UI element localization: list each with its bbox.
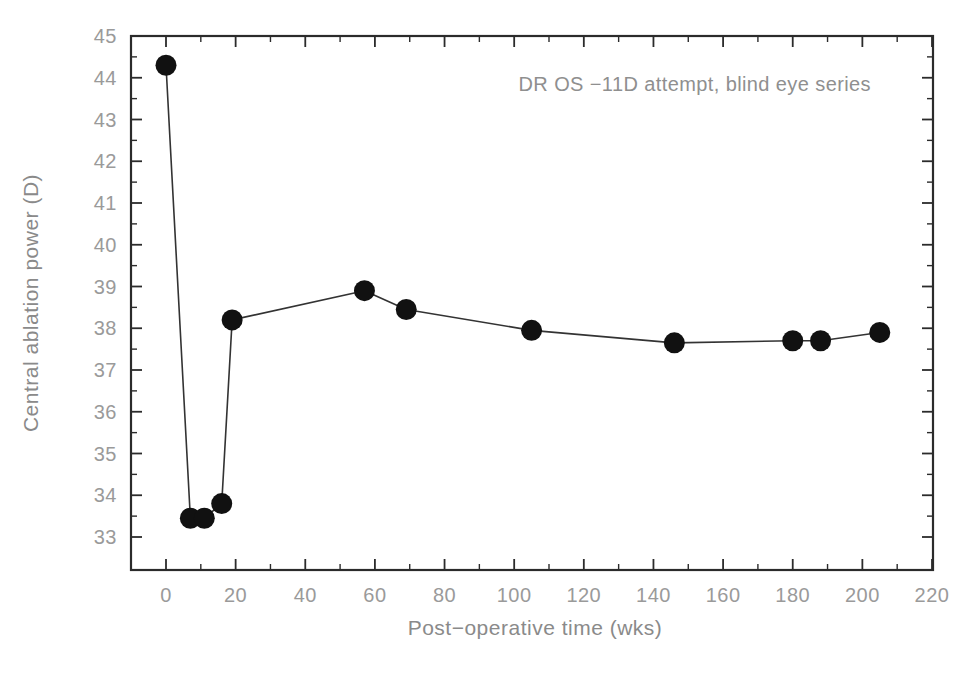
x-tick-label: 180 [775,584,810,606]
plot-frame [131,36,933,570]
y-axis-title: Central ablation power (D) [19,174,42,432]
y-tick-label: 45 [94,25,117,47]
x-tick-label: 40 [294,584,317,606]
x-tick-label: 160 [706,584,741,606]
x-tick-label: 60 [363,584,386,606]
chart-figure: 0204060801001201401601802002203334353637… [0,0,965,673]
y-tick-label: 35 [94,443,117,465]
x-tick-label: 0 [160,584,172,606]
data-point-marker [521,320,542,341]
data-point-marker [782,330,803,351]
y-tick-label: 39 [94,276,117,298]
y-axis [131,36,933,537]
data-point-marker [869,322,890,343]
y-tick-label: 40 [94,234,117,256]
x-tick-label: 200 [845,584,880,606]
y-tick-label: 37 [94,359,117,381]
y-tick-label: 43 [94,109,117,131]
data-point-marker [664,332,685,353]
y-tick-label: 42 [94,150,117,172]
x-tick-label: 220 [915,584,950,606]
data-point-marker [810,330,831,351]
data-point-marker [396,299,417,320]
y-tick-label: 34 [94,484,117,506]
x-tick-label: 100 [497,584,532,606]
y-tick-label: 36 [94,401,117,423]
x-axis [166,36,932,570]
x-tick-label: 140 [636,584,671,606]
x-axis-title: Post−operative time (wks) [408,616,663,639]
y-tick-label: 41 [94,192,117,214]
data-point-marker [211,493,232,514]
chart-canvas: 0204060801001201401601802002203334353637… [0,0,965,673]
series-line [166,65,880,518]
y-tick-label: 33 [94,526,117,548]
data-point-marker [194,508,215,529]
data-point-marker [354,280,375,301]
x-tick-label: 120 [566,584,601,606]
y-tick-label: 44 [94,67,117,89]
x-tick-label: 20 [224,584,247,606]
x-tick-label: 80 [433,584,456,606]
data-point-marker [156,55,177,76]
y-tick-label: 38 [94,317,117,339]
chart-annotation: DR OS −11D attempt, blind eye series [518,73,871,95]
data-point-marker [222,309,243,330]
